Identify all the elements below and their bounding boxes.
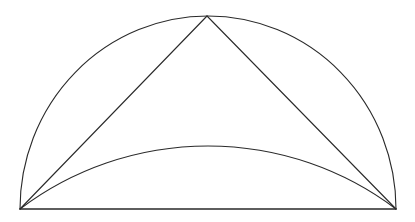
- diagram-canvas: [0, 0, 415, 222]
- semicircle-arc: [20, 16, 396, 209]
- inner-arc: [20, 146, 396, 209]
- left-chord-line: [20, 16, 207, 209]
- right-chord-line: [207, 16, 396, 209]
- diagram-svg: [0, 0, 415, 222]
